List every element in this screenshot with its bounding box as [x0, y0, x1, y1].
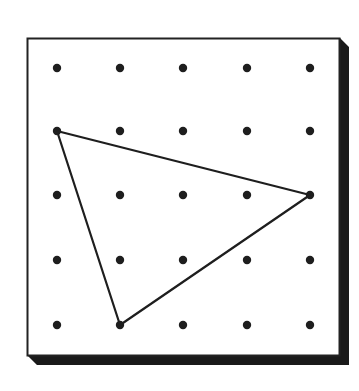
peg-dot: [179, 127, 187, 135]
peg-dot: [179, 64, 187, 72]
peg-dot: [179, 191, 187, 199]
peg-dot: [53, 64, 61, 72]
peg-dot: [179, 256, 187, 264]
peg-dot: [116, 127, 124, 135]
peg-dot: [53, 256, 61, 264]
peg-dot: [116, 64, 124, 72]
peg-dot: [306, 64, 314, 72]
peg-dot: [243, 127, 251, 135]
peg-dot: [179, 321, 187, 329]
peg-dot: [243, 191, 251, 199]
peg-dot: [243, 256, 251, 264]
peg-dot: [306, 256, 314, 264]
peg-dot: [243, 64, 251, 72]
peg-dot: [116, 191, 124, 199]
peg-dot: [53, 321, 61, 329]
peg-dot: [116, 256, 124, 264]
geoboard-figure: [0, 0, 359, 391]
peg-dot: [243, 321, 251, 329]
peg-dot: [53, 191, 61, 199]
peg-dot: [306, 127, 314, 135]
peg-dot: [306, 321, 314, 329]
